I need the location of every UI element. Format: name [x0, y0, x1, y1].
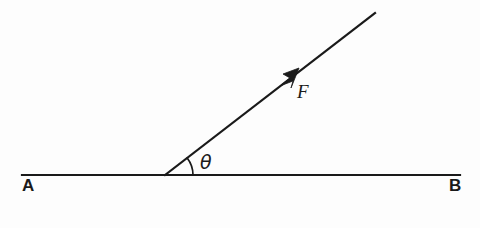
- theta-arc: [187, 158, 193, 175]
- point-label-a: A: [22, 177, 34, 194]
- force-ray: [165, 13, 375, 175]
- force-label: F: [297, 82, 309, 101]
- theta-label: θ: [200, 153, 212, 172]
- diagram-canvas: A B F θ: [0, 0, 480, 228]
- point-label-b: B: [449, 177, 461, 194]
- angle-force-diagram: [0, 0, 480, 228]
